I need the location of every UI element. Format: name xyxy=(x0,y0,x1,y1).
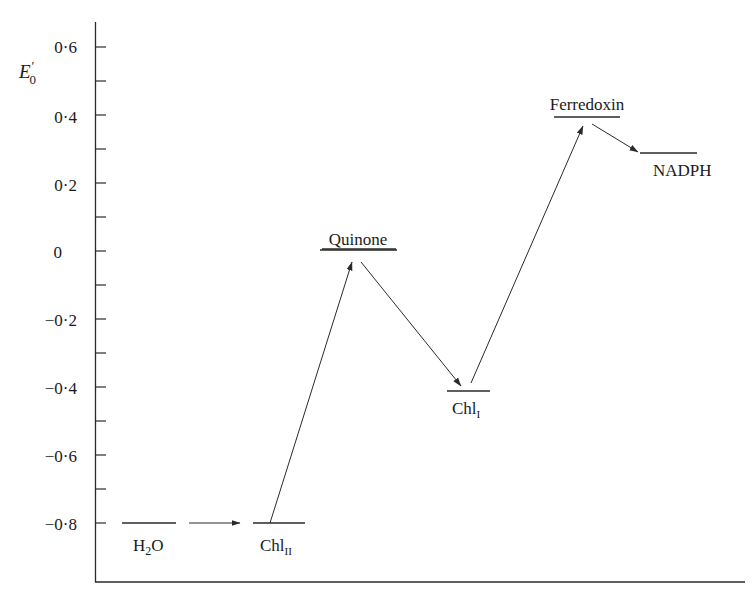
transitions xyxy=(189,124,638,523)
y-axis-ticks xyxy=(96,47,107,523)
energy-levels: H2O ChlII Quinone ChlI Ferredoxin NADPH xyxy=(122,95,712,558)
y-axis-tick-labels: 0·6 0·4 0·2 0 −0·2 −0·4 −0·6 −0·8 xyxy=(45,38,78,534)
tick-label-neg-0.8: −0·8 xyxy=(45,515,77,534)
arrow-chl-ii-to-quinone xyxy=(270,262,352,523)
axes xyxy=(95,22,745,582)
arrow-quinone-to-chl-i xyxy=(361,262,461,386)
tick-label-neg-0.2: −0·2 xyxy=(45,311,77,330)
tick-label-0: 0 xyxy=(54,243,63,262)
tick-label-0.4: 0·4 xyxy=(54,108,77,127)
arrow-chl-i-to-ferredoxin xyxy=(471,126,583,383)
label-quinone: Quinone xyxy=(329,230,388,249)
energy-diagram: E′0 0·6 0·4 0·2 0 −0·2 −0·4 −0·6 −0·8 H2… xyxy=(0,0,755,607)
label-chl-i: ChlI xyxy=(452,399,481,420)
label-chl-ii: ChlII xyxy=(260,536,292,557)
y-axis-label: E′0 xyxy=(18,58,36,87)
tick-label-0.6: 0·6 xyxy=(54,38,77,57)
tick-label-neg-0.4: −0·4 xyxy=(45,379,78,398)
arrow-ferredoxin-to-nadph xyxy=(592,124,638,152)
label-nadph: NADPH xyxy=(653,161,712,180)
tick-label-neg-0.6: −0·6 xyxy=(45,447,77,466)
label-ferredoxin: Ferredoxin xyxy=(550,95,625,114)
tick-label-0.2: 0·2 xyxy=(54,176,77,195)
label-h2o: H2O xyxy=(133,536,164,558)
